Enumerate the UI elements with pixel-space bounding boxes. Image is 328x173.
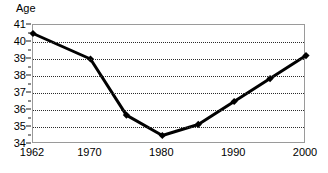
y-tick-mark bbox=[26, 58, 31, 59]
gridline-horizontal bbox=[33, 42, 304, 43]
x-tick-label: 1962 bbox=[20, 146, 44, 158]
series-polyline bbox=[33, 34, 306, 136]
x-tick-label: 1990 bbox=[221, 146, 245, 158]
y-tick-label: 37 bbox=[14, 86, 26, 98]
x-axis-ticks: 19621970198019902000 bbox=[0, 146, 328, 166]
y-tick-mark-minor bbox=[28, 134, 31, 135]
gridline-horizontal bbox=[33, 110, 304, 111]
y-tick-mark-minor bbox=[28, 49, 31, 50]
y-tick-label: 35 bbox=[14, 120, 26, 132]
gridline-horizontal bbox=[33, 76, 304, 77]
gridline-horizontal bbox=[33, 59, 304, 60]
gridline-horizontal bbox=[33, 93, 304, 94]
y-tick-label: 40 bbox=[14, 35, 26, 47]
y-axis-title: Age bbox=[16, 2, 36, 14]
y-tick-mark bbox=[26, 24, 31, 25]
y-tick-mark bbox=[26, 109, 31, 110]
y-tick-label: 39 bbox=[14, 52, 26, 64]
x-tick-label: 1970 bbox=[77, 146, 101, 158]
y-tick-label: 41 bbox=[14, 18, 26, 30]
y-axis-ticks: 3435363738394041 bbox=[0, 24, 30, 143]
y-tick-mark-minor bbox=[28, 100, 31, 101]
gridline-horizontal bbox=[33, 127, 304, 128]
y-tick-mark bbox=[26, 92, 31, 93]
y-tick-mark bbox=[26, 126, 31, 127]
y-tick-mark bbox=[26, 143, 31, 144]
x-tick-label: 2000 bbox=[293, 146, 317, 158]
y-tick-mark bbox=[26, 75, 31, 76]
plot-area bbox=[32, 24, 305, 143]
y-tick-label: 36 bbox=[14, 103, 26, 115]
y-tick-mark-minor bbox=[28, 83, 31, 84]
y-tick-mark-minor bbox=[28, 117, 31, 118]
y-tick-mark bbox=[26, 41, 31, 42]
x-tick-label: 1980 bbox=[149, 146, 173, 158]
line-chart: Age 3435363738394041 1962197019801990200… bbox=[0, 0, 328, 173]
y-tick-mark-minor bbox=[28, 66, 31, 67]
y-tick-mark-minor bbox=[28, 32, 31, 33]
y-tick-label: 38 bbox=[14, 69, 26, 81]
